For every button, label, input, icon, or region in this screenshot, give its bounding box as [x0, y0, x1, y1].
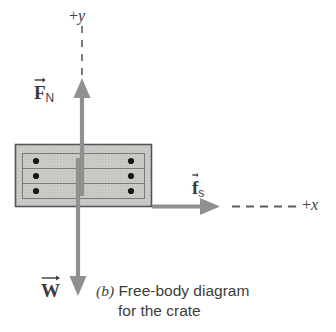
static-friction-symbol: f: [192, 177, 198, 198]
vector-arrow-icon: [192, 171, 198, 178]
normal-force-symbol-stack: F: [34, 77, 46, 102]
figure-caption: (b) Free-body diagram for the crate: [96, 281, 331, 321]
caption-line-2: for the crate: [96, 301, 331, 321]
normal-force-subscript: N: [46, 91, 55, 105]
normal-force-label: F N: [34, 77, 54, 104]
x-axis-label: +x: [302, 197, 318, 213]
normal-force-symbol: F: [34, 82, 46, 103]
vector-arrow-icon: [41, 274, 60, 281]
static-friction-subscript: s: [198, 186, 204, 200]
x-axis-variable: x: [311, 196, 318, 213]
vector-arrow-icon: [34, 76, 46, 83]
y-axis-sign: +: [69, 7, 78, 24]
x-axis-sign: +: [302, 196, 311, 213]
free-body-diagram-figure: +y +x F N f s W: [0, 0, 336, 332]
y-axis-variable: y: [78, 7, 85, 24]
weight-force-symbol-stack: W: [41, 275, 60, 300]
static-friction-symbol-stack: f: [192, 172, 198, 197]
weight-force-label: W: [41, 275, 60, 302]
static-friction-label: f s: [192, 172, 204, 199]
caption-line-1: Free-body diagram: [118, 282, 249, 299]
static-friction-arrow: [152, 198, 220, 215]
y-axis-label: +y: [69, 8, 85, 24]
weight-force-symbol: W: [41, 280, 60, 301]
caption-letter: (b): [96, 282, 114, 299]
